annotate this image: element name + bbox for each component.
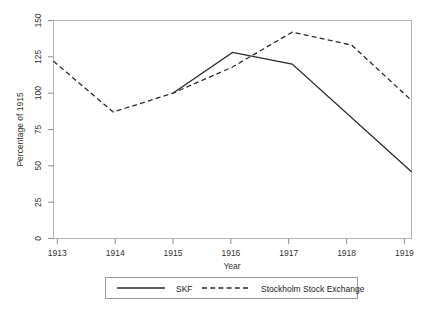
y-tick-label-0: 0 — [33, 236, 43, 241]
y-axis: 0 25 50 75 100 125 150 — [33, 13, 54, 241]
y-tick-label-75: 75 — [33, 125, 43, 135]
x-tick-label-1917: 1917 — [279, 248, 298, 258]
series-line-skf — [173, 52, 412, 171]
x-tick-label-1918: 1918 — [337, 248, 356, 258]
x-tick-label-1915: 1915 — [164, 248, 183, 258]
x-tick-label-1919: 1919 — [395, 248, 414, 258]
chart-figure: 0 25 50 75 100 125 150 Percentage of 191… — [0, 0, 440, 316]
y-tick-label-150: 150 — [33, 13, 43, 27]
chart-legend: SKF Stockholm Stock Exchange — [106, 278, 365, 299]
legend-label-stockholm-stock-exchange: Stockholm Stock Exchange — [261, 284, 365, 294]
legend-label-skf: SKF — [176, 284, 193, 294]
x-axis-title: Year — [223, 261, 240, 271]
y-axis-title: Percentage of 1915 — [15, 92, 25, 166]
x-axis: 1913 1914 1915 1916 1917 1918 1919 — [48, 239, 414, 259]
x-tick-label-1916: 1916 — [221, 248, 240, 258]
x-tick-label-1914: 1914 — [106, 248, 125, 258]
y-tick-label-100: 100 — [33, 86, 43, 100]
y-tick-label-25: 25 — [33, 197, 43, 207]
x-tick-label-1913: 1913 — [48, 248, 67, 258]
y-tick-label-50: 50 — [33, 161, 43, 171]
series-line-stockholm-stock-exchange — [54, 32, 412, 112]
y-tick-label-125: 125 — [33, 49, 43, 63]
